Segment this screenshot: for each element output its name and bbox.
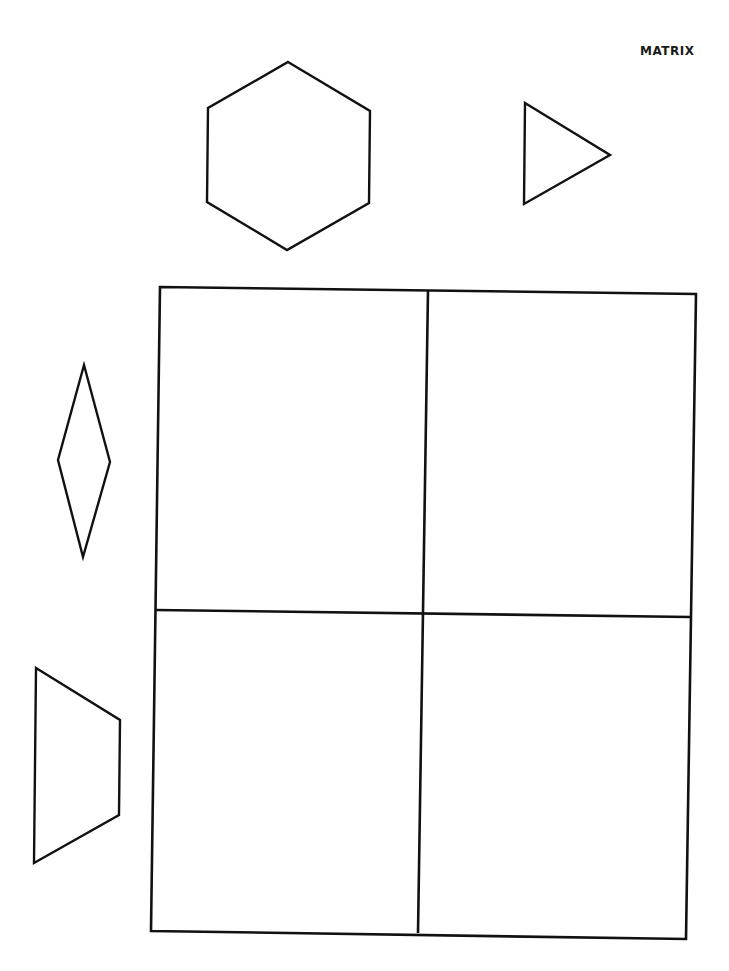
matrix-vertical-divider bbox=[418, 290, 428, 933]
triangle-shape bbox=[524, 103, 610, 204]
matrix-grid bbox=[151, 287, 696, 939]
diamond-shape bbox=[58, 365, 110, 557]
trapezoid-shape bbox=[34, 668, 120, 863]
hexagon-shape bbox=[207, 62, 370, 250]
diagram-canvas bbox=[0, 0, 729, 971]
